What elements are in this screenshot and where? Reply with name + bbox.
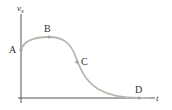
point-c-marker <box>75 60 78 63</box>
x-axis-label: t <box>156 93 159 103</box>
point-c-label: C <box>81 56 88 67</box>
velocity-curve <box>21 37 150 98</box>
velocity-time-graph: vx t A B C D <box>0 0 172 110</box>
point-a-label: A <box>9 44 17 55</box>
point-d-marker <box>137 96 140 99</box>
point-b-marker <box>47 35 50 38</box>
point-b-label: B <box>44 23 51 34</box>
y-axis-label: vx <box>17 3 24 14</box>
point-d-label: D <box>135 84 142 95</box>
point-a-marker <box>19 48 22 51</box>
